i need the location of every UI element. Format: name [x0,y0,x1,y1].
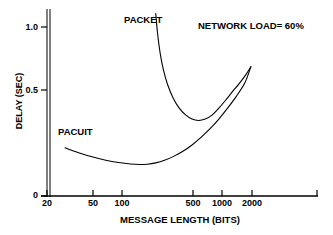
series-paths [65,13,251,164]
y-axis-title: DELAY (SEC) [14,53,24,149]
series-label-pacuit: PACUIT [58,126,93,137]
series-line-pacuit [65,67,251,165]
x-tick-label-20: 20 [33,198,61,208]
chart-figure: 1.0 0.5 0 20 50 100 500 1000 2000 DELAY … [0,0,333,235]
x-tick-label-50: 50 [79,198,107,208]
y-tick-label-1_0: 1.0 [6,22,38,32]
x-tick-label-2000: 2000 [234,198,270,208]
x-axis-title: MESSAGE LENGTH (BITS) [40,214,320,225]
series-label-packet: PACKET [124,14,162,25]
x-tick-label-100: 100 [106,198,138,208]
annotation-network-load: NETWORK LOAD= 60% [198,20,304,31]
